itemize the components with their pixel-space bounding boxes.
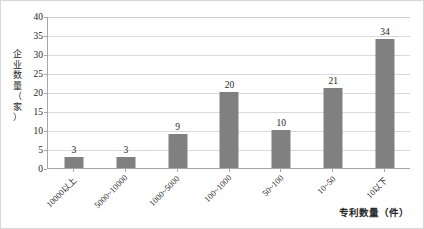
bar-group[interactable]: 20 <box>204 17 256 168</box>
y-axis-tick-label: 5 <box>3 145 43 155</box>
bar-chart-figure: 企 业 数 量 （ 家 ） 0510152025303540 339201021… <box>0 0 424 229</box>
bar[interactable] <box>64 157 83 168</box>
bar[interactable] <box>116 157 135 168</box>
bar[interactable] <box>324 88 343 168</box>
bar-value-label: 21 <box>328 76 338 86</box>
x-axis-tick-label: 10000以上 <box>43 173 79 209</box>
x-axis-tick-label: 1000~5000 <box>147 173 181 207</box>
x-axis-tick-mark <box>177 169 178 172</box>
x-axis-title: 专利数量（件） <box>339 205 409 219</box>
bar-series: 33920102134 <box>48 17 410 168</box>
bar-value-label: 10 <box>277 118 287 128</box>
plot-area: 33920102134 <box>47 17 410 169</box>
bar-group[interactable]: 9 <box>152 17 204 168</box>
x-axis-tick-mark <box>384 169 385 172</box>
x-axis-tick-mark <box>280 169 281 172</box>
bar[interactable] <box>168 134 187 168</box>
y-axis-tick-label: 0 <box>3 164 43 174</box>
bar[interactable] <box>220 92 239 168</box>
x-axis-tick-label: 10~50 <box>315 173 337 195</box>
x-axis-tick-mark <box>125 169 126 172</box>
bar-group[interactable]: 3 <box>48 17 100 168</box>
bar-group[interactable]: 21 <box>307 17 359 168</box>
bar-group[interactable]: 3 <box>100 17 152 168</box>
x-axis-tick-mark <box>229 169 230 172</box>
bar-value-label: 3 <box>123 145 128 155</box>
bar-value-label: 34 <box>380 27 390 37</box>
y-axis-tick-label: 10 <box>3 126 43 136</box>
y-axis-tick-label: 40 <box>3 12 43 22</box>
bar-group[interactable]: 34 <box>359 17 411 168</box>
bar-value-label: 9 <box>175 122 180 132</box>
bar-value-label: 20 <box>225 80 235 90</box>
x-axis-tick-label: 5000~10000 <box>92 173 129 210</box>
y-axis-tick-mark <box>44 169 47 170</box>
x-axis-tick-label: 10以下 <box>363 173 390 200</box>
bar[interactable] <box>272 130 291 168</box>
x-axis-tick-label: 100~1000 <box>202 173 233 204</box>
y-axis-tick-label: 30 <box>3 50 43 60</box>
y-axis-tick-label: 15 <box>3 107 43 117</box>
bar[interactable] <box>376 39 395 168</box>
y-axis-tick-label: 20 <box>3 88 43 98</box>
bar-group[interactable]: 10 <box>255 17 307 168</box>
x-axis-tick-mark <box>332 169 333 172</box>
x-axis-tick-mark <box>73 169 74 172</box>
bar-value-label: 3 <box>72 145 77 155</box>
y-axis-tick-label: 35 <box>3 31 43 41</box>
y-axis-tick-label: 25 <box>3 69 43 79</box>
x-axis-tick-label: 50~100 <box>260 173 285 198</box>
